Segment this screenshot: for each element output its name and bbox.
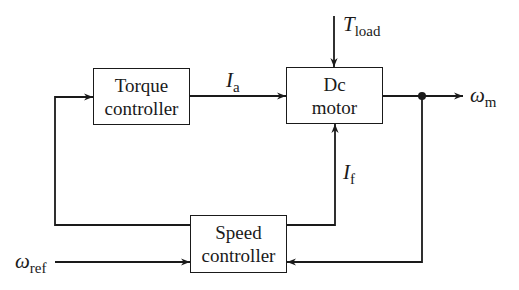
speed-line2: controller — [202, 244, 276, 267]
label-ia: Ia — [226, 68, 240, 96]
torque-controller-block: Torque controller — [93, 68, 190, 125]
label-wref: ωref — [15, 249, 46, 277]
speed-line1: Speed — [215, 221, 261, 244]
label-if: If — [343, 160, 355, 188]
motor-line2: motor — [312, 96, 357, 119]
torque-line2: controller — [105, 97, 179, 120]
motor-line1: Dc — [323, 73, 345, 96]
label-tload: Tload — [343, 12, 381, 40]
torque-line1: Torque — [115, 74, 169, 97]
speed-controller-block: Speed controller — [190, 215, 287, 273]
label-wm: ωm — [470, 83, 497, 111]
dc-motor-block: Dc motor — [286, 67, 383, 124]
if-wire — [287, 124, 335, 225]
junction-dot — [418, 92, 426, 100]
